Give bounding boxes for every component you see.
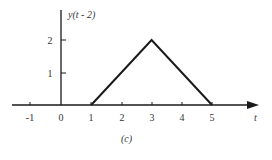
x-tick-label: 0 [59,112,64,123]
y-ticks: 12 [48,35,67,79]
triangle-pulse-diagram: -1012345 12 y(t - 2) t (c) [0,0,272,160]
x-tick-label: 2 [120,112,125,123]
triangle-signal [91,40,212,105]
x-tick-label: -1 [26,112,34,123]
y-tick-label: 2 [48,35,53,46]
x-axis-arrow-icon [247,101,259,109]
x-tick-label: 1 [89,112,94,123]
x-tick-label: 4 [180,112,185,123]
x-axis-label: t [254,112,257,123]
x-tick-label: 3 [150,112,155,123]
y-axis-label: y(t - 2) [67,9,96,21]
x-tick-label: 5 [210,112,215,123]
y-tick-label: 1 [48,68,53,79]
figure-caption: (c) [121,133,133,145]
